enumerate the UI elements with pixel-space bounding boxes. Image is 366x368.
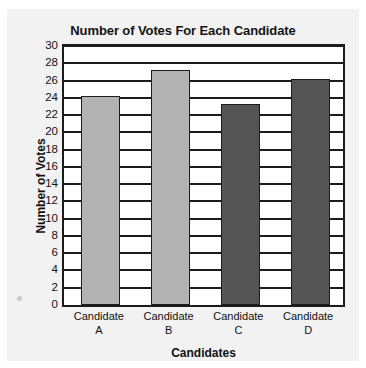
x-tick-label: CandidateB xyxy=(134,309,204,337)
y-tick-label: 10 xyxy=(24,213,58,225)
x-tick-label-line: Candidate xyxy=(213,310,263,322)
x-tick-label-line: Candidate xyxy=(144,310,194,322)
y-tick-label: 24 xyxy=(24,92,58,104)
chart-figure: Number of Votes For Each Candidate Numbe… xyxy=(7,9,359,361)
y-tick-label: 0 xyxy=(24,299,58,311)
y-tick-label: 28 xyxy=(24,58,58,70)
y-tick-label: 16 xyxy=(24,161,58,173)
x-tick-label-line: B xyxy=(134,323,204,337)
x-tick-label-line: A xyxy=(64,323,134,337)
plot-area xyxy=(62,44,345,307)
bars-layer xyxy=(64,46,343,305)
chart-title: Number of Votes For Each Candidate xyxy=(7,23,359,38)
image-artifact-dot xyxy=(17,296,22,301)
x-tick-label-line: D xyxy=(273,323,343,337)
x-axis-title: Candidates xyxy=(62,346,345,360)
x-tick-label-line: Candidate xyxy=(283,310,333,322)
y-tick-label: 2 xyxy=(24,282,58,294)
y-tick-label: 12 xyxy=(24,196,58,208)
y-tick-label: 20 xyxy=(24,127,58,139)
x-tick-label: CandidateA xyxy=(64,309,134,337)
y-tick-label: 18 xyxy=(24,144,58,156)
y-tick-label: 8 xyxy=(24,230,58,242)
y-tick-label: 4 xyxy=(24,265,58,277)
y-tick-label: 6 xyxy=(24,247,58,259)
x-tick-label: CandidateC xyxy=(204,309,274,337)
bar xyxy=(221,104,260,305)
bar xyxy=(81,96,120,305)
bar xyxy=(151,70,190,305)
x-axis-tick-labels: CandidateACandidateBCandidateCCandidateD xyxy=(62,309,345,343)
y-axis-tick-labels: 024681012141618202224262830 xyxy=(24,44,58,307)
y-tick-label: 30 xyxy=(24,40,58,52)
x-tick-label-line: Candidate xyxy=(74,310,124,322)
y-tick-label: 14 xyxy=(24,178,58,190)
bar xyxy=(291,79,330,305)
y-tick-label: 22 xyxy=(24,109,58,121)
x-tick-label: CandidateD xyxy=(273,309,343,337)
y-tick-label: 26 xyxy=(24,75,58,87)
x-tick-label-line: C xyxy=(204,323,274,337)
